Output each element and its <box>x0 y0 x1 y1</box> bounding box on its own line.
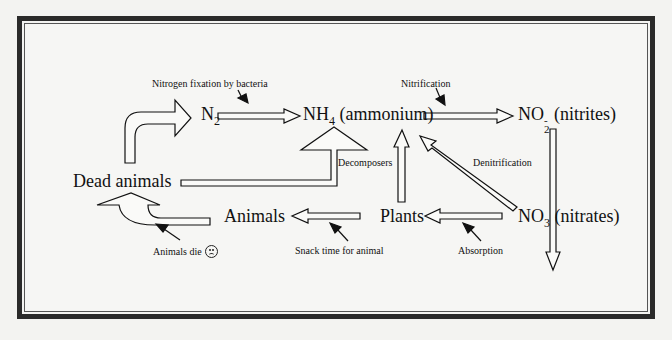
arrow-no2-to-no3 <box>546 129 560 270</box>
arrow-absorption <box>425 209 502 223</box>
arrow-nitrification <box>424 109 513 123</box>
label-absorption: Absorption <box>458 245 503 257</box>
label-animals-die: Animals die <box>153 245 218 258</box>
arrow-dead-to-n2 <box>125 100 191 163</box>
arrow-fixation <box>218 109 300 123</box>
label-decomposers: Decomposers <box>338 157 392 169</box>
label-nitrogen-fixation: Nitrogen fixation by bacteria <box>152 78 268 90</box>
node-nh4-ammonium: NH4 (ammonium) <box>303 104 433 131</box>
arrow-animals-die <box>97 193 210 225</box>
arrow-plants-to-nh4 <box>394 130 409 202</box>
node-plants: Plants <box>380 206 424 226</box>
node-n2: N2 <box>201 104 220 131</box>
node-no3-nitrates: NO3 (nitrates) <box>518 206 619 233</box>
arrow-snack <box>292 209 360 223</box>
node-dead-animals: Dead animals <box>73 171 171 191</box>
sad-face-icon <box>205 245 218 258</box>
node-animals: Animals <box>224 206 285 226</box>
label-snack-time: Snack time for animal <box>295 245 384 257</box>
label-denitrification: Denitrification <box>473 157 532 169</box>
arrow-denitrification <box>420 136 517 211</box>
node-no2-nitrites: NO-2 (nitrites) <box>518 104 616 134</box>
label-nitrification: Nitrification <box>401 78 450 90</box>
arrows-layer <box>0 0 672 340</box>
